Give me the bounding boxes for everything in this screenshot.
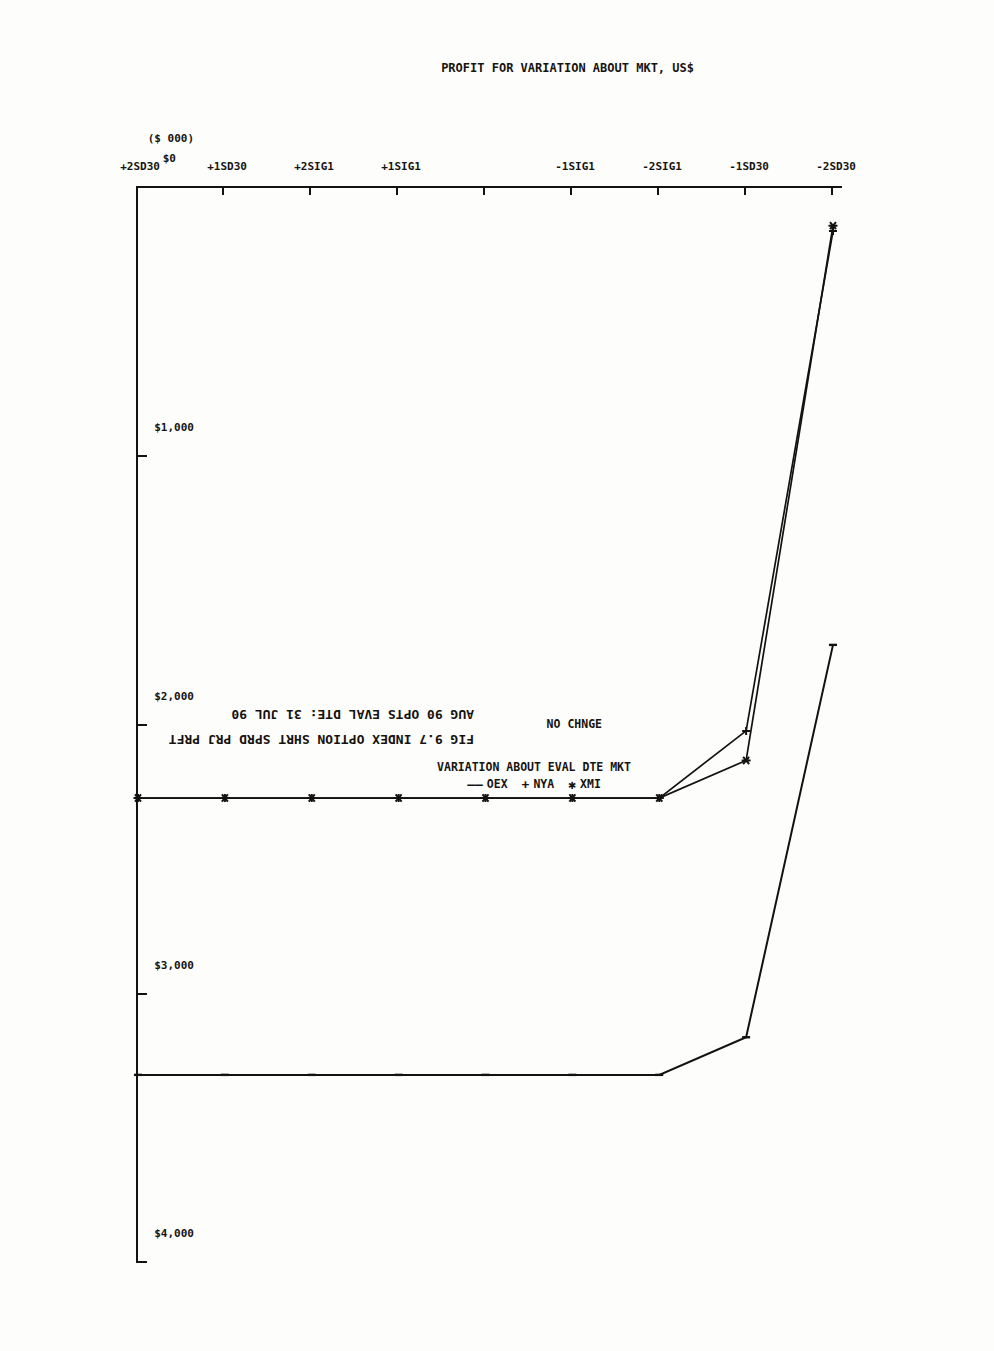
series-line-xmi: [138, 226, 833, 798]
series-line-oex: [138, 645, 833, 1075]
chart-series-layer: [0, 0, 994, 1351]
series-line-nya: [138, 231, 833, 798]
rotated-figure-canvas: FIG 9.7 INDEX OPTION SHRT SPRD PRJ PRFT …: [0, 0, 994, 1351]
scanned-figure-page: FIG 9.7 INDEX OPTION SHRT SPRD PRJ PRFT …: [0, 0, 994, 1351]
